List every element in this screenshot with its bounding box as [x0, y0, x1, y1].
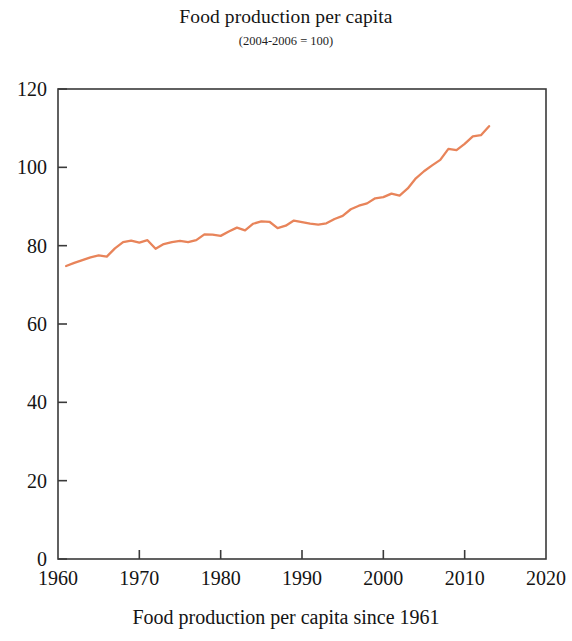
x-tick-label: 2020: [526, 567, 566, 589]
x-tick-label: 1960: [38, 567, 78, 589]
data-series-line: [66, 126, 489, 266]
x-tick-label: 2010: [445, 567, 485, 589]
plot-frame: [58, 89, 546, 559]
y-tick-label: 60: [27, 313, 47, 335]
x-tick-label: 1990: [282, 567, 322, 589]
x-tick-label: 1970: [119, 567, 159, 589]
x-tick-label: 1980: [201, 567, 241, 589]
y-tick-label: 20: [27, 470, 47, 492]
x-tick-label: 2000: [363, 567, 403, 589]
y-tick-label: 80: [27, 235, 47, 257]
y-axis-ticks: [58, 89, 67, 559]
x-axis-ticks: [139, 550, 464, 559]
y-tick-label: 40: [27, 391, 47, 413]
plot-area: 020406080100120 196019701980199020002010…: [0, 0, 572, 641]
y-axis-tick-labels: 020406080100120: [17, 78, 47, 570]
chart-figure: Food production per capita (2004-2006 = …: [0, 0, 572, 641]
y-tick-label: 100: [17, 156, 47, 178]
chart-caption: Food production per capita since 1961: [0, 604, 572, 630]
y-tick-label: 120: [17, 78, 47, 100]
x-axis-tick-labels: 1960197019801990200020102020: [38, 567, 566, 589]
